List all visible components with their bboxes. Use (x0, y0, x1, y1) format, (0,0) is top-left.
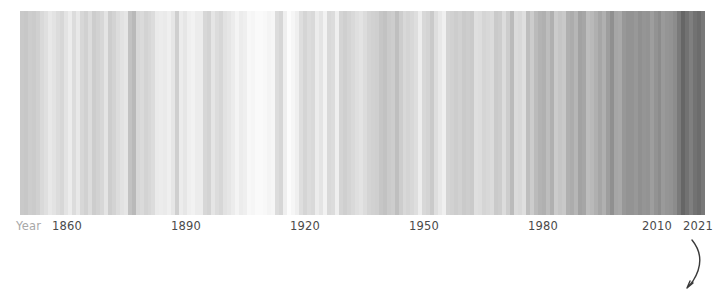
hand-drawn-arc-annotation (665, 233, 723, 289)
x-axis: Year 1860189019201950198020102021 (0, 215, 723, 241)
x-tick-2010: 2010 (642, 219, 672, 233)
x-axis-label: Year (16, 219, 41, 233)
x-tick-1950: 1950 (409, 219, 439, 233)
arc-stroke (687, 240, 700, 288)
x-tick-1980: 1980 (528, 219, 558, 233)
stripes-plot-area (20, 11, 705, 215)
warming-stripes-figure: Year 1860189019201950198020102021 (0, 0, 723, 289)
x-tick-2021: 2021 (683, 219, 713, 233)
x-tick-1860: 1860 (52, 219, 82, 233)
x-tick-1920: 1920 (290, 219, 320, 233)
x-tick-1890: 1890 (171, 219, 201, 233)
stripe-2021 (701, 11, 705, 215)
